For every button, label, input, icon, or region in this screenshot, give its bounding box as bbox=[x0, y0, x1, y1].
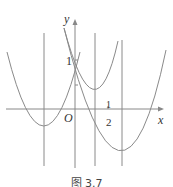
y-axis-label: y bbox=[64, 13, 69, 25]
x-tick-denominator: 2 bbox=[106, 117, 112, 128]
diagram-canvas bbox=[0, 0, 173, 187]
x-axis-arrow-icon bbox=[158, 107, 164, 112]
x-tick-numerator: 1 bbox=[106, 100, 111, 110]
y-tick-label: 1 bbox=[66, 55, 72, 67]
origin-label: O bbox=[64, 112, 73, 124]
figure-caption: 图 3.7 bbox=[0, 174, 173, 187]
parabola-right bbox=[64, 28, 166, 151]
y-axis-arrow-icon bbox=[73, 19, 78, 25]
x-axis-label: x bbox=[158, 114, 163, 126]
